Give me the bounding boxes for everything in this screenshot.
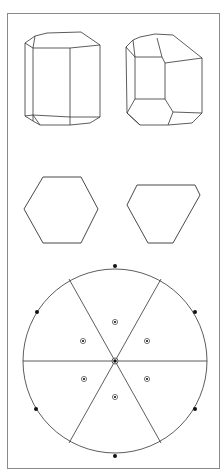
figure-frame — [8, 14, 220, 469]
regular-hexagon-section — [24, 177, 98, 243]
stereographic-projection — [23, 264, 207, 458]
center-pole — [112, 358, 118, 364]
crystal-diagram — [0, 0, 224, 475]
trigonal-hexagon-section — [127, 185, 200, 243]
crystal-truncated-habit — [126, 34, 202, 125]
crystal-prism-habit — [25, 32, 100, 125]
